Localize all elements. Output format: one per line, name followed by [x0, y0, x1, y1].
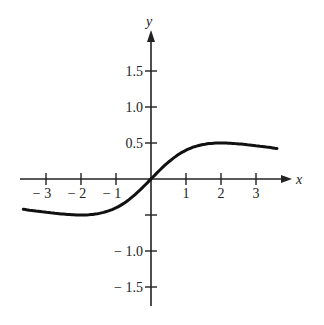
y-tick-label: 1.5: [126, 64, 144, 79]
x-tick-label: 2: [218, 186, 225, 201]
x-tick-label: 1: [183, 186, 190, 201]
function-plot: x y − 3− 2− 1123 1.51.00.5− 1.0− 1.5: [0, 0, 324, 325]
y-axis-arrow-icon: [147, 30, 155, 42]
x-tick-label: − 3: [33, 186, 51, 201]
y-tick-label: 0.5: [126, 136, 144, 151]
y-tick-label: 1.0: [126, 100, 144, 115]
y-tick-label: − 1.5: [114, 280, 143, 295]
x-tick-label: 3: [253, 186, 260, 201]
x-axis-arrow-icon: [281, 175, 292, 183]
x-tick-label: − 2: [68, 186, 86, 201]
x-ticks: − 3− 2− 1123: [33, 173, 260, 201]
y-axis-label: y: [144, 14, 153, 29]
x-tick-label: − 1: [103, 186, 121, 201]
y-tick-label: − 1.0: [114, 244, 143, 259]
x-axis-label: x: [295, 172, 303, 187]
